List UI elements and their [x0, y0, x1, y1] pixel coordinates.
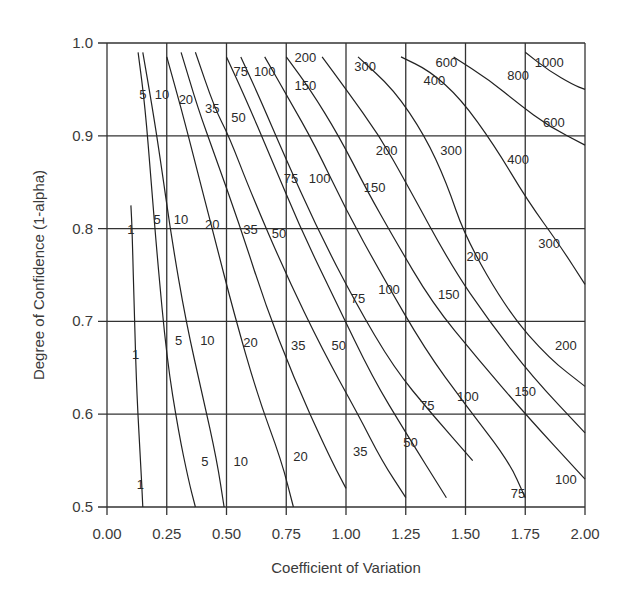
contour-label: 20 [243, 335, 257, 350]
contour-label: 20 [293, 449, 307, 464]
contour-label: 75 [234, 64, 248, 79]
x-tick-label: 0.75 [272, 525, 301, 542]
x-axis-title: Coefficient of Variation [271, 559, 421, 576]
contour-label: 100 [378, 282, 400, 297]
contour-line-100 [241, 57, 473, 461]
x-tick-label: 0.00 [92, 525, 121, 542]
contour-label: 150 [514, 384, 536, 399]
contour-label: 300 [354, 59, 376, 74]
contour-label: 200 [295, 50, 317, 65]
y-tick-label: 1.0 [72, 34, 93, 51]
contour-line-75 [227, 57, 447, 498]
contour-label: 50 [332, 338, 346, 353]
contour-line-400 [358, 57, 585, 387]
contour-label: 35 [243, 222, 257, 237]
contour-label: 20 [179, 92, 193, 107]
y-axis-title: Degree of Confidence (1-alpha) [30, 170, 47, 380]
contour-label: 600 [436, 55, 458, 70]
contour-label: 1 [137, 477, 144, 492]
contour-label: 50 [272, 226, 286, 241]
contour-label: 35 [291, 338, 305, 353]
contour-label: 75 [511, 486, 525, 501]
y-tick-label: 0.9 [72, 127, 93, 144]
contour-label: 400 [424, 73, 446, 88]
contour-label: 150 [364, 180, 386, 195]
x-tick-label: 1.25 [391, 525, 420, 542]
contour-label: 100 [555, 472, 577, 487]
y-axis-ticks: 0.50.60.70.80.91.0 [72, 34, 93, 515]
contour-label: 200 [376, 143, 398, 158]
contour-label: 800 [507, 68, 529, 83]
contour-label: 75 [351, 291, 365, 306]
x-tick-label: 1.00 [331, 525, 360, 542]
contour-line-150 [265, 57, 526, 498]
contour-label: 1 [127, 222, 134, 237]
contour-lines [131, 52, 585, 507]
contour-label: 600 [543, 115, 565, 130]
contour-label: 150 [438, 287, 460, 302]
contour-label: 300 [538, 236, 560, 251]
y-tick-label: 0.5 [72, 498, 93, 515]
x-tick-label: 0.25 [152, 525, 181, 542]
contour-label: 10 [234, 454, 248, 469]
x-tick-label: 2.00 [570, 525, 599, 542]
contour-label: 300 [440, 143, 462, 158]
contour-label: 200 [555, 338, 577, 353]
contour-label: 10 [155, 87, 169, 102]
contour-label: 5 [175, 333, 182, 348]
contour-label: 50 [403, 435, 417, 450]
contour-label: 5 [154, 212, 161, 227]
contour-label: 50 [231, 110, 245, 125]
plot-grid [98, 43, 585, 515]
contour-label: 35 [353, 444, 367, 459]
contour-label: 100 [457, 389, 479, 404]
contour-label: 10 [174, 212, 188, 227]
contour-label: 75 [284, 171, 298, 186]
contour-label: 400 [507, 152, 529, 167]
x-tick-label: 1.75 [511, 525, 540, 542]
contour-line-10 [143, 52, 224, 507]
x-tick-label: 1.50 [451, 525, 480, 542]
contour-label: 100 [309, 171, 331, 186]
contour-label: 1 [132, 347, 139, 362]
x-tick-label: 0.50 [212, 525, 241, 542]
contour-label: 200 [467, 249, 489, 264]
contour-label: 150 [295, 78, 317, 93]
contour-label: 35 [205, 101, 219, 116]
contour-label: 10 [200, 333, 214, 348]
x-axis-ticks: 0.000.250.500.751.001.251.501.752.00 [92, 525, 599, 542]
contour-line-20 [167, 57, 294, 507]
contour-labels: 5102035507510015020030040060080010006002… [127, 50, 576, 501]
y-tick-label: 0.6 [72, 405, 93, 422]
contour-label: 5 [139, 87, 146, 102]
contour-label: 100 [254, 64, 276, 79]
contour-label: 1000 [535, 55, 564, 70]
y-tick-label: 0.8 [72, 220, 93, 237]
contour-chart: 5102035507510015020030040060080010006002… [0, 0, 634, 604]
y-tick-label: 0.7 [72, 312, 93, 329]
contour-label: 75 [420, 398, 434, 413]
contour-label: 20 [205, 217, 219, 232]
contour-label: 5 [201, 454, 208, 469]
